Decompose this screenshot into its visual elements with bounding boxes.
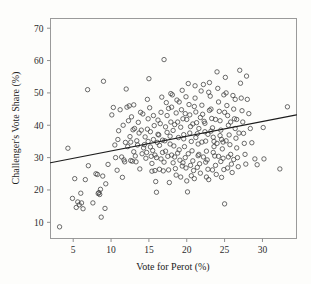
scatter-point xyxy=(81,207,85,211)
scatter-point xyxy=(163,125,167,129)
x-tick-label: 30 xyxy=(258,245,268,255)
scatter-point xyxy=(217,109,221,113)
scatter-point xyxy=(103,206,107,210)
scatter-point xyxy=(193,84,197,88)
scatter-point xyxy=(178,125,182,129)
y-tick-label: 40 xyxy=(34,121,44,131)
scatter-point xyxy=(139,128,143,132)
scatter-point xyxy=(121,123,125,127)
scatter-point xyxy=(132,150,136,154)
x-axis-ticks xyxy=(73,239,262,243)
scatter-point xyxy=(154,179,158,183)
scatter-point xyxy=(150,169,154,173)
scatter-point xyxy=(166,168,170,172)
scatter-point xyxy=(173,166,177,170)
scatter-point xyxy=(233,97,237,101)
scatter-point xyxy=(101,174,105,178)
scatter-point xyxy=(162,160,166,164)
scatter-point xyxy=(152,123,156,127)
scatter-point xyxy=(151,113,155,117)
scatter-point xyxy=(175,120,179,124)
scatter-point xyxy=(151,137,155,141)
scatter-point xyxy=(200,103,204,107)
scatter-point xyxy=(110,113,114,117)
scatter-point xyxy=(99,215,103,219)
scatter-point xyxy=(167,180,171,184)
scatter-point xyxy=(187,102,191,106)
scatter-point xyxy=(124,87,128,91)
scatter-point xyxy=(126,119,130,123)
scatter-point xyxy=(238,81,242,85)
scatter-point xyxy=(113,155,117,159)
scatter-point xyxy=(116,129,120,133)
scatter-point xyxy=(183,155,187,159)
scatter-point xyxy=(207,90,211,94)
scatter-point xyxy=(244,162,248,166)
scatter-point xyxy=(222,110,226,114)
scatter-point xyxy=(104,182,108,186)
scatter-point xyxy=(144,156,148,160)
y-axis-tick-labels: 10203040506070 xyxy=(34,24,44,228)
scatter-point xyxy=(171,128,175,132)
scatter-point xyxy=(189,139,193,143)
scatter-point xyxy=(228,120,232,124)
scatter-point xyxy=(193,96,197,100)
scatter-point xyxy=(242,141,246,145)
y-tick-label: 10 xyxy=(34,218,44,228)
scatter-point xyxy=(153,168,157,172)
scatter-point xyxy=(207,80,211,84)
scatter-point xyxy=(245,97,249,101)
scatter-point xyxy=(83,177,87,181)
scatter-point xyxy=(164,100,168,104)
scatter-point xyxy=(138,167,142,171)
scatter-point xyxy=(201,82,205,86)
scatter-point xyxy=(168,134,172,138)
scatter-point xyxy=(213,163,217,167)
scatter-point xyxy=(147,106,151,110)
scatter-point xyxy=(194,135,198,139)
scatter-point xyxy=(234,136,238,140)
scatter-point xyxy=(227,133,231,137)
scatter-point xyxy=(174,173,178,177)
scatter-point xyxy=(188,131,192,135)
scatter-point xyxy=(95,172,99,176)
scatter-point xyxy=(225,166,229,170)
scatter-point xyxy=(144,150,148,154)
scatter-point xyxy=(145,97,149,101)
scatter-point xyxy=(188,163,192,167)
scatter-point xyxy=(210,168,214,172)
scatter-point xyxy=(228,142,232,146)
scatter-point xyxy=(198,115,202,119)
scatter-point xyxy=(168,142,172,146)
y-tick-label: 20 xyxy=(34,185,44,195)
scatter-point xyxy=(156,118,160,122)
scatter-point xyxy=(285,105,289,109)
y-tick-label: 50 xyxy=(34,88,44,98)
scatter-point xyxy=(174,111,178,115)
scatter-point xyxy=(129,140,133,144)
scatter-point xyxy=(57,225,61,229)
scatter-point xyxy=(216,86,220,90)
scatter-point xyxy=(73,176,77,180)
chart-canvas: 51015202530 10203040506070 Vote for Pero… xyxy=(0,0,311,284)
x-axis-tick-labels: 51015202530 xyxy=(71,245,268,255)
scatter-point xyxy=(216,100,220,104)
data-points xyxy=(57,57,289,229)
scatter-point xyxy=(231,157,235,161)
scatter-point xyxy=(220,147,224,151)
scatter-point xyxy=(111,105,115,109)
scatter-point xyxy=(132,103,136,107)
x-axis-title: Vote for Perot (%) xyxy=(136,261,209,273)
scatter-point xyxy=(225,103,229,107)
x-tick-label: 5 xyxy=(71,245,76,255)
y-axis-ticks xyxy=(47,28,51,222)
scatter-point xyxy=(115,168,119,172)
scatter-point xyxy=(145,127,149,131)
scatter-point xyxy=(185,179,189,183)
scatter-point xyxy=(218,119,222,123)
scatter-point xyxy=(70,196,74,200)
scatter-point xyxy=(236,164,240,168)
scatter-point xyxy=(204,149,208,153)
scatter-point xyxy=(86,164,90,168)
scatter-point xyxy=(179,108,183,112)
